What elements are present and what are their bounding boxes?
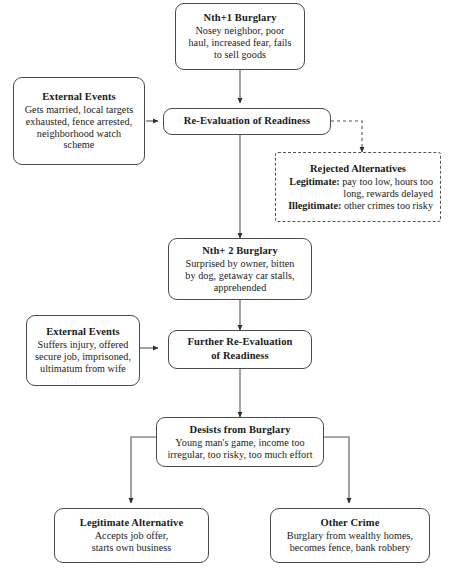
node-body: Burglary from wealthy homes, becomes fen… [287, 530, 413, 554]
node-title: External Events [42, 91, 116, 103]
node-further-re-evaluation[interactable]: Further Re-Evaluation of Readiness [168, 330, 312, 369]
node-body: Nosey neighbor, poor haul, increased fea… [188, 25, 291, 60]
edge-desists-to-other-crime [324, 437, 349, 503]
node-title: Other Crime [321, 517, 380, 529]
node-desists-from-burglary[interactable]: Desists from Burglary Young man's game, … [156, 417, 324, 467]
node-other-crime[interactable]: Other Crime Burglary from wealthy homes,… [270, 508, 430, 563]
node-legitimate-alternative[interactable]: Legitimate Alternative Accepts job offer… [54, 508, 209, 563]
node-external-events-2[interactable]: External Events Suffers injury, offered … [26, 315, 140, 386]
node-rejected-alternatives[interactable]: Rejected Alternatives Legitimate: pay to… [275, 152, 441, 222]
legitimate-line: Legitimate: pay too low, hours too [280, 176, 433, 188]
node-title: Legitimate Alternative [80, 517, 183, 529]
edge-reevaluation-to-rejected [331, 121, 362, 152]
node-body: Suffers injury, offered secure job, impr… [35, 339, 131, 374]
node-body: Gets married, local targets exhausted, f… [25, 104, 134, 151]
rejected-alternatives-body: Legitimate: pay too low, hours too long,… [280, 176, 436, 211]
node-external-events-1[interactable]: External Events Gets married, local targ… [13, 77, 145, 165]
legitimate-line-2: long, rewards delayed [280, 188, 433, 200]
node-nth2-burglary[interactable]: Nth+ 2 Burglary Surprised by owner, bitt… [168, 238, 312, 300]
node-nth1-burglary[interactable]: Nth+1 Burglary Nosey neighbor, poor haul… [175, 3, 305, 70]
node-title: External Events [46, 326, 120, 338]
legitimate-label: Legitimate: [289, 176, 339, 187]
node-re-evaluation-of-readiness[interactable]: Re-Evaluation of Readiness [163, 108, 331, 135]
legitimate-text: pay too low, hours too [340, 176, 433, 187]
node-title: Nth+1 Burglary [203, 12, 276, 24]
node-title: Re-Evaluation of Readiness [184, 115, 310, 127]
node-body: Surprised by owner, bitten by dog, getaw… [185, 258, 294, 293]
node-body: Accepts job offer, starts own business [92, 530, 172, 554]
node-title: Desists from Burglary [189, 424, 290, 436]
illegitimate-label: Illegitimate: [288, 200, 341, 211]
node-title: Further Re-Evaluation [188, 336, 293, 348]
flowchart-canvas: Nth+1 Burglary Nosey neighbor, poor haul… [0, 0, 451, 572]
node-body: Young man's game, income too irregular, … [167, 437, 312, 461]
rejected-alternatives-title: Rejected Alternatives [280, 163, 436, 175]
node-title-line2: of Readiness [211, 350, 269, 362]
illegitimate-line: Illegitimate: other crimes too risky [280, 200, 433, 212]
illegitimate-text: other crimes too risky [341, 200, 433, 211]
edge-desists-to-legitimate [131, 437, 156, 503]
node-title: Nth+ 2 Burglary [202, 245, 278, 257]
